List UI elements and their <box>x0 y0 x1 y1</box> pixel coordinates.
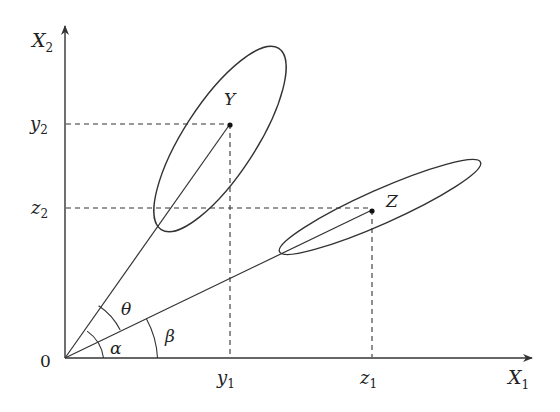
ellipse-z <box>273 147 488 268</box>
angle-alpha-label: α <box>110 338 122 358</box>
diagram-canvas: X2 X1 0 y2 z2 y1 z1 Y Z θ α β <box>0 0 560 412</box>
z2-tick-label: z2 <box>30 197 48 221</box>
angle-beta-arc <box>147 319 158 358</box>
point-z-dot <box>369 208 374 213</box>
point-y-label: Y <box>224 89 237 109</box>
vector-z-line <box>65 210 372 358</box>
point-y-dot <box>227 122 232 127</box>
z1-tick-label: z1 <box>359 367 377 391</box>
origin-label: 0 <box>40 351 51 371</box>
y1-tick-label: y1 <box>216 367 235 391</box>
vector-y-line <box>65 124 230 358</box>
angle-alpha-arc-inner <box>87 331 103 358</box>
angle-theta-arc <box>99 306 121 330</box>
x1-axis-label: X1 <box>506 366 529 392</box>
x2-axis-label: X2 <box>30 29 53 55</box>
point-z-label: Z <box>385 191 399 211</box>
angle-theta-label: θ <box>121 299 131 319</box>
angle-beta-label: β <box>164 326 175 346</box>
y2-tick-label: y2 <box>29 113 48 137</box>
